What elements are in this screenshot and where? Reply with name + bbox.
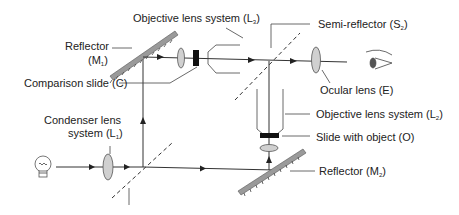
label-reflector-m1: Reflector: [65, 40, 109, 52]
ray-arrowhead: [200, 166, 206, 172]
ray-arrowhead: [248, 57, 255, 63]
comparison-slide: [193, 50, 199, 66]
ocular-lens: [312, 47, 321, 73]
label-ocular-lens: Ocular lens (E): [320, 84, 393, 96]
objective-lens-l2: [257, 89, 283, 135]
reflector-m2: [238, 149, 306, 196]
ocular-leader: [322, 70, 330, 83]
eye-icon: [366, 50, 392, 69]
semi-reflector-leader: [271, 24, 310, 48]
label-condenser: Condenser lens: [44, 114, 122, 126]
ray-arrowhead: [140, 117, 146, 124]
label-reflector-m1-id: (M1): [88, 54, 108, 67]
comparison-lens: [178, 48, 185, 68]
ray-arrowhead: [89, 164, 95, 170]
slide-with-object: [260, 133, 279, 138]
label-objective-l2: Objective lens system (L2): [316, 108, 443, 121]
beam-splitter-s1: [112, 143, 172, 198]
label-comparison-slide: Comparison slide (C): [24, 77, 127, 89]
ray-arrowhead: [266, 156, 272, 163]
ray-splitter-to-m2: [143, 167, 275, 170]
objective-l3-leader: [226, 28, 243, 38]
comparison-slide-leader: [119, 67, 197, 83]
label-objective-l3: Objective lens system (L3): [133, 12, 260, 25]
light-bulb-icon: [35, 156, 51, 177]
comparison-microscope-diagram: Objective lens system (L3) Semi-reflecto…: [0, 0, 459, 215]
label-condenser-id: system (L1): [68, 127, 123, 140]
ray-arrowhead: [157, 54, 164, 60]
ray-arrowhead: [124, 164, 130, 170]
object-lens: [260, 145, 278, 152]
condenser-lens: [103, 154, 113, 180]
label-slide-object: Slide with object (O): [316, 131, 414, 143]
semi-reflector-s2: [235, 33, 300, 100]
label-semi-reflector: Semi-reflector (S2): [318, 18, 408, 31]
label-reflector-m2: Reflector (M2): [319, 165, 386, 178]
ray-arrowhead: [290, 58, 297, 64]
